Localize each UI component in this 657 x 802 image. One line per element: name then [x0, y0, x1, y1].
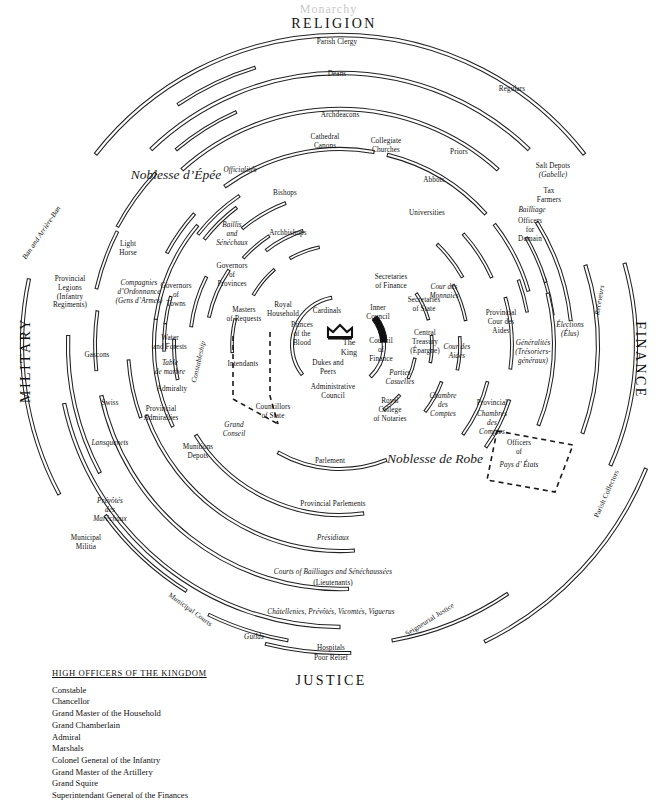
- religion-deans: Deans: [328, 70, 346, 79]
- arc-segment-gascons: [94, 311, 99, 371]
- legend-item: Grand Squire: [52, 778, 207, 790]
- sector-title-justice: JUSTICE: [295, 673, 366, 689]
- high-officers-legend: HIGH OFFICERS OF THE KINGDOM ConstableCh…: [52, 668, 207, 802]
- legend-item: Superintendant General of the Finances: [52, 790, 207, 802]
- legend-item: Grand Master of the Household: [52, 708, 207, 720]
- sector-title-finance: FINANCE: [632, 321, 648, 398]
- legend-item: Grand Chamberlain: [52, 720, 207, 732]
- military-compagnies-dordonnance: Compagniesd’Ordonnance(Gens d’Armes): [115, 279, 162, 305]
- justice-guilds: Guilds: [244, 633, 264, 642]
- center-princes-of-the-blood: Princesof theBlood: [291, 321, 313, 347]
- center-administrative-council: AdministrativeCouncil: [311, 383, 356, 401]
- military-governors-of-towns: GovernorsofTowns: [160, 282, 191, 308]
- legend-list: ConstableChancellorGrand Master of the H…: [52, 685, 207, 802]
- legend-item: Constable: [52, 685, 207, 697]
- military-lansquenets: Lansquenets: [91, 439, 128, 448]
- military-light-horse: LightHorse: [119, 240, 137, 258]
- finance-cour-des-aides: Cour desAides: [444, 343, 471, 361]
- justice-chatellenies: Châtellenies, Prévôtés, Vicomtés, Viguer…: [267, 608, 394, 617]
- center-dukes-and-peers: Dukes andPeers: [312, 359, 343, 377]
- military-provincial-legions: ProvincialLegions(InfantryRegiments): [53, 275, 87, 310]
- arc-segment-light-horse: [127, 360, 142, 418]
- legend-item: Grand Master of the Artillery: [52, 767, 207, 779]
- finance-bailliage-officers-for-domain: Bailliage: [518, 206, 545, 215]
- legend-item: Marshals: [52, 743, 207, 755]
- legend-item: Chancellor: [52, 696, 207, 708]
- military-provincial-admiralties: ProvincialAdmiralties: [143, 405, 178, 423]
- justice-parlement: Parlement: [315, 457, 345, 466]
- military-intendants: Intendants: [228, 360, 259, 369]
- religion-bishops: Bishops: [273, 189, 297, 198]
- finance-secretaries-of-finance: Secretariesof Finance: [375, 273, 408, 291]
- religion-regulars: Regulars: [499, 85, 525, 94]
- military-admiralty: Admiralty: [157, 385, 187, 394]
- military-munitions-depots: MunitionsDepots: [183, 443, 213, 461]
- arc-segment-abbots: [462, 233, 493, 278]
- finance-generalites: Généralités(Trésoriers-généraux): [515, 339, 551, 365]
- legend-title: HIGH OFFICERS OF THE KINGDOM: [52, 668, 207, 680]
- finance-provincial-cour-des-aides: ProvincialCour desAides: [486, 309, 517, 335]
- arc-segment-presidiaux: [145, 415, 355, 553]
- military-masters-of-requests: Mastersof Requests: [227, 306, 262, 324]
- justice-lieutenants: (Lieutenants): [313, 579, 353, 588]
- religion-universities: Universities: [409, 209, 445, 218]
- justice-presidiaux: Présidiaux: [317, 534, 349, 543]
- religion-cathedral-canons: CathedralCanons: [311, 133, 340, 151]
- legend-item: Admiral: [52, 732, 207, 744]
- finance-chambre-des-comptes: ChambredesComptes: [429, 392, 456, 418]
- military-swiss: Swiss: [101, 399, 118, 408]
- estate-label-noblesse-depee: Noblesse d’Épée: [131, 167, 221, 183]
- center-inner-council: InnerCouncil: [366, 304, 389, 322]
- finance-parties-casuelles: PartiesCasuelles: [386, 369, 415, 387]
- finance-provincial-chambres-des-comptes: Provincial: [477, 399, 508, 408]
- finance-tax-farmers: TaxFarmers: [537, 187, 561, 205]
- finance-salt-depots: Salt Depots: [536, 162, 570, 171]
- religion-abbots: Abbots: [423, 176, 444, 185]
- military-baillis-et-senechaux: BaillisandSénéchaux: [216, 221, 248, 247]
- military-municipal-militia: MunicipalMilitia: [71, 534, 101, 552]
- sector-title-religion: RELIGION: [291, 16, 376, 32]
- arc-segment-bishops: [241, 202, 286, 230]
- estate-label-noblesse-de-robe: Noblesse de Robe: [387, 451, 483, 467]
- military-prevotes-des-marechaux: PrévôtésdesMaréchaux: [93, 497, 127, 523]
- justice-poor-relief: Poor Relief: [314, 654, 348, 663]
- center-royal-household: RoyalHousehold: [267, 301, 299, 319]
- sector-title-military: MILITARY: [18, 317, 34, 403]
- military-water-and-forests: Waterand Forests: [153, 334, 187, 352]
- military-grand-conseil: GrandConseil: [223, 421, 246, 439]
- finance-central-treasury: CentralTreasury(Épargne): [410, 329, 440, 355]
- finance-gabelle: (Gabelle): [539, 171, 567, 180]
- arc-segment-universities: [436, 243, 463, 278]
- justice-courts-of-bailliages: Courts of Bailliages and Sénéchaussées: [274, 568, 392, 577]
- center-cardinals: Cardinals: [313, 307, 341, 316]
- arc-segment-councillors-state: [252, 269, 275, 296]
- arc-segment-cathedral-inner: [289, 246, 319, 260]
- legend-item: Colonel General of the Infantry: [52, 755, 207, 767]
- arc-segment-parish-collectors: [484, 468, 647, 643]
- justice-royal-college-of-notaries: RoyalCollegeof Notaries: [373, 397, 406, 423]
- finance-officers-for-domain: OfficersforDomain: [518, 217, 542, 243]
- religion-priors: Priors: [450, 148, 468, 157]
- religion-archdeacons: Archdeacons: [321, 111, 360, 120]
- finance-pays-detats: Pays d’ États: [500, 461, 539, 470]
- center-council-of-finance: CouncilofFinance: [369, 337, 392, 363]
- arc-segment-constableship: [190, 276, 208, 327]
- military-governors-of-provinces: GovernorsofProvinces: [216, 262, 247, 288]
- finance-elections: Élections(Élus): [556, 321, 584, 339]
- justice-hospitals: Hospitals: [317, 644, 345, 653]
- military-gascons: Gascons: [84, 351, 109, 360]
- religion-officialites: Officialités: [223, 166, 256, 175]
- finance-secretaries-of-state: Secretariesof State: [408, 296, 441, 314]
- arc-segment-bailliage-officers: [525, 237, 547, 283]
- finance-officers-of-pays-detats: Officersof: [507, 439, 531, 457]
- finance-chambres-des-comptes-prov: ChambresdesComptes: [477, 410, 507, 436]
- arc-segment-prevotes-des-marechaux: [175, 111, 237, 151]
- religion-collegiate-churches: CollegiateChurches: [371, 137, 402, 155]
- military-table-de-marbre: Tablede marbre: [155, 359, 185, 377]
- religion-parish-clergy: Parish Clergy: [317, 38, 358, 47]
- military-councillors-of-state: Councillorsof State: [256, 403, 291, 421]
- religion-archbishops: Archbishops: [269, 229, 306, 238]
- justice-provincial-parlements: Provincial Parlements: [300, 500, 365, 509]
- the-king-label: TheKing: [341, 338, 357, 358]
